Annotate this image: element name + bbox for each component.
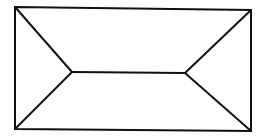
diagonal-bottom-right: [185, 73, 251, 131]
diagonal-top-right: [185, 10, 251, 73]
diagonal-bottom-left: [15, 72, 72, 129]
roof-wireframe-diagram: [0, 0, 264, 138]
diagonal-top-left: [15, 7, 72, 72]
outer-rectangle: [15, 7, 251, 131]
ridge-line: [72, 72, 185, 73]
